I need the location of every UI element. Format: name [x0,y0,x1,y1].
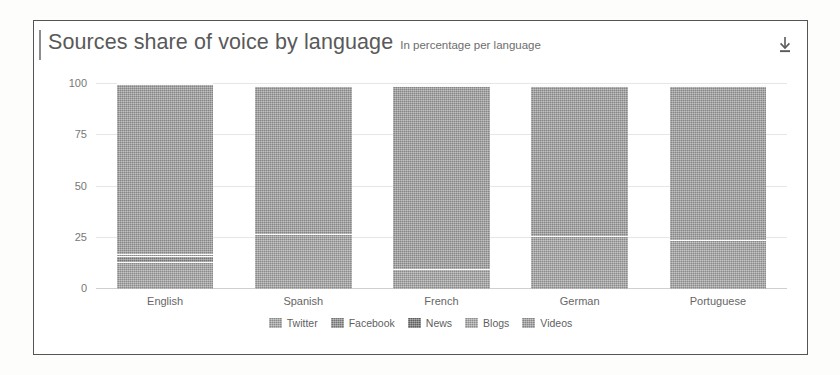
bar-stack [255,86,352,289]
bar-segment-videos[interactable] [117,84,214,254]
x-axis-label-english: English [99,295,232,307]
bar-segment-videos[interactable] [670,86,767,240]
page-title: Sources share of voice by language [48,30,393,55]
legend-swatch-twitter [269,318,282,328]
bar-group-german[interactable]: German [531,84,628,289]
legend-label: Twitter [287,317,318,329]
legend-swatch-videos [522,318,535,328]
bar-group-spanish[interactable]: Spanish [255,84,352,289]
legend-label: News [426,317,452,329]
chart-subtitle: In percentage per language [400,39,541,51]
segment-separator [255,85,352,87]
x-axis-label-french: French [375,295,508,307]
legend-item-facebook[interactable]: Facebook [331,317,395,329]
chart-legend: TwitterFacebookNewsBlogsVideos [34,317,807,329]
x-axis-label-german: German [513,295,646,307]
legend-swatch-news [408,318,421,328]
bar-segment-videos[interactable] [531,86,628,236]
bar-segment-twitter[interactable] [117,262,214,289]
bar-segment-videos[interactable] [255,86,352,234]
title-group: Sources share of voice by language In pe… [48,30,541,55]
chart-panel: Sources share of voice by language In pe… [33,20,808,355]
legend-item-twitter[interactable]: Twitter [269,317,318,329]
legend-label: Videos [540,317,572,329]
bar-group-french[interactable]: French [393,84,490,289]
bar-stack [670,86,767,289]
bar-stack [531,86,628,289]
legend-item-news[interactable]: News [408,317,452,329]
download-button[interactable] [776,35,794,55]
scanned-page-background: Sources share of voice by language In pe… [0,0,840,375]
segment-separator [670,85,767,87]
bar-segment-videos[interactable] [393,86,490,268]
x-axis-label-spanish: Spanish [237,295,370,307]
bar-segment-twitter[interactable] [393,269,490,290]
bar-group-portuguese[interactable]: Portuguese [670,84,767,289]
legend-swatch-facebook [331,318,344,328]
legend-item-blogs[interactable]: Blogs [465,317,509,329]
segment-separator [117,83,214,85]
segment-separator [393,85,490,87]
bars-layer: EnglishSpanishFrenchGermanPortuguese [96,84,787,289]
y-axis-tick-label: 75 [75,128,87,140]
bar-group-english[interactable]: English [117,84,214,289]
plot-area: 0255075100 EnglishSpanishFrenchGermanPor… [34,67,807,312]
bar-segment-twitter[interactable] [255,234,352,289]
y-axis-tick-label: 0 [81,282,87,294]
legend-item-videos[interactable]: Videos [522,317,572,329]
segment-separator [531,85,628,87]
legend-swatch-blogs [465,318,478,328]
chart-header: Sources share of voice by language In pe… [34,21,807,67]
bar-segment-twitter[interactable] [670,240,767,289]
bar-segment-twitter[interactable] [531,236,628,289]
x-axis-label-portuguese: Portuguese [652,295,785,307]
y-axis-tick-label: 50 [75,180,87,192]
y-axis-tick-label: 100 [69,77,87,89]
download-icon [776,35,794,55]
y-axis-tick-label: 25 [75,231,87,243]
legend-label: Blogs [483,317,509,329]
legend-label: Facebook [349,317,395,329]
title-accent-bar [39,30,41,60]
bar-stack [117,84,214,289]
bar-stack [393,86,490,289]
